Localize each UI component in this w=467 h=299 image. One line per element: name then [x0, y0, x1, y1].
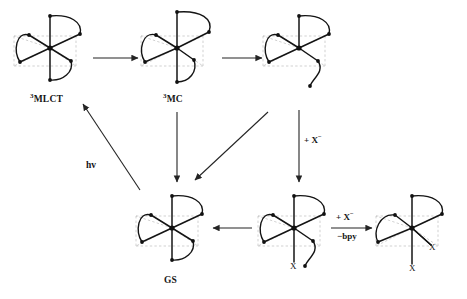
label-hv-text: hv: [86, 160, 96, 170]
label-gs: GS: [164, 276, 177, 286]
label-plus-x-horizontal-charge: −: [350, 210, 354, 217]
label-x-mono: X: [290, 262, 297, 271]
label-minus-bpy: −bpy: [337, 232, 357, 241]
label-plus-x-horizontal: + X−: [336, 213, 354, 222]
label-x-bis-right: X: [429, 243, 436, 252]
label-plus-x-vertical: + X−: [304, 136, 322, 145]
label-plus-x-horizontal-text: + X: [336, 212, 350, 222]
label-minus-bpy-text: −bpy: [337, 231, 357, 241]
label-plus-x-vertical-charge: −: [318, 133, 322, 140]
structure-mlct: [14, 14, 82, 82]
arrow-dissoc-to-gs: [195, 112, 268, 180]
structure-mono-x: [258, 194, 326, 268]
diagram-canvas: [0, 0, 467, 299]
structure-mc: [141, 10, 211, 84]
label-mlct-text: MLCT: [34, 94, 63, 104]
label-x-bis-bottom: X: [409, 264, 416, 273]
label-mlct: 3MLCT: [30, 95, 63, 105]
label-mc: 3MC: [163, 95, 183, 105]
arrow-gs-to-mlct: [83, 104, 140, 190]
structure-dissociated: [263, 14, 331, 88]
label-hv: hv: [86, 161, 96, 171]
structure-ground-state: [136, 194, 204, 262]
label-x-mono-text: X: [290, 261, 297, 271]
reaction-scheme-diagram: 3MLCT 3MC GS hv + X− + X− −bpy X X X: [0, 0, 467, 299]
label-gs-text: GS: [164, 275, 177, 285]
label-mc-text: MC: [167, 94, 183, 104]
structure-bis-x: [376, 194, 444, 264]
label-x-bis-bottom-text: X: [409, 263, 416, 273]
label-plus-x-vertical-text: + X: [304, 135, 318, 145]
label-x-bis-right-text: X: [429, 242, 436, 252]
